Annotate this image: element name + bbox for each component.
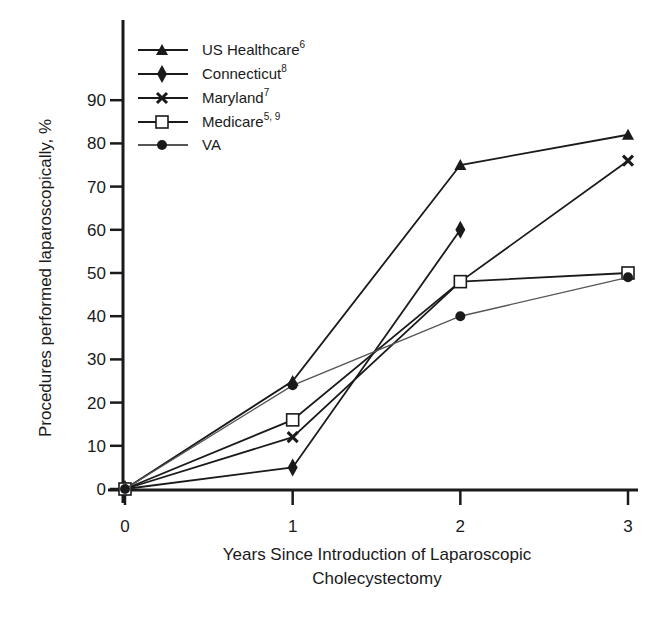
x-axis-title-line-2: Cholecystectomy bbox=[312, 569, 442, 588]
series-us-healthcare bbox=[119, 129, 634, 494]
x-axis-title-line-1: Years Since Introduction of Laparoscopic bbox=[223, 545, 532, 564]
diamond-marker bbox=[157, 65, 167, 83]
legend-label: US Healthcare6 bbox=[202, 39, 306, 58]
y-tick-label: 90 bbox=[87, 91, 106, 110]
series-connecticut bbox=[120, 221, 465, 498]
legend-label: Medicare5, 9 bbox=[202, 111, 281, 130]
square-marker bbox=[454, 276, 466, 288]
series-line bbox=[125, 273, 628, 489]
legend-item: VA bbox=[138, 136, 221, 153]
y-axis: 0102030405060708090 bbox=[87, 20, 123, 503]
x-marker bbox=[623, 156, 633, 166]
legend-item: US Healthcare6 bbox=[138, 39, 306, 58]
square-marker bbox=[156, 116, 168, 128]
x-tick-label: 2 bbox=[456, 517, 465, 536]
y-tick-label: 30 bbox=[87, 350, 106, 369]
y-tick-label: 20 bbox=[87, 394, 106, 413]
y-axis-title: Procedures performed laparoscopically, % bbox=[36, 119, 55, 437]
x-marker bbox=[288, 432, 298, 442]
triangle-marker bbox=[622, 129, 634, 140]
circle-marker bbox=[120, 484, 130, 494]
y-tick-label: 40 bbox=[87, 307, 106, 326]
line-chart: 0102030405060708090 0123 US Healthcare6C… bbox=[0, 0, 669, 621]
legend-label: Maryland7 bbox=[202, 87, 270, 106]
legend-item: Connecticut8 bbox=[138, 63, 287, 83]
legend-item: Medicare5, 9 bbox=[138, 111, 281, 130]
series-line bbox=[125, 135, 628, 489]
x-axis: 0123 bbox=[108, 490, 638, 536]
circle-marker bbox=[455, 311, 465, 321]
y-tick-label: 70 bbox=[87, 178, 106, 197]
circle-marker bbox=[157, 140, 167, 150]
y-tick-label: 0 bbox=[97, 480, 106, 499]
series-line bbox=[125, 230, 460, 489]
legend: US Healthcare6Connecticut8Maryland7Medic… bbox=[138, 39, 306, 153]
series-medicare bbox=[119, 267, 634, 495]
x-tick-label: 1 bbox=[288, 517, 297, 536]
legend-label: Connecticut8 bbox=[202, 63, 287, 82]
y-tick-label: 50 bbox=[87, 264, 106, 283]
series-va bbox=[120, 272, 633, 494]
circle-marker bbox=[288, 380, 298, 390]
series-layer bbox=[119, 129, 634, 498]
x-tick-label: 0 bbox=[120, 517, 129, 536]
circle-marker bbox=[623, 272, 633, 282]
legend-item: Maryland7 bbox=[138, 87, 270, 106]
x-tick-label: 3 bbox=[623, 517, 632, 536]
y-tick-label: 80 bbox=[87, 134, 106, 153]
square-marker bbox=[287, 414, 299, 426]
y-tick-label: 60 bbox=[87, 221, 106, 240]
legend-label: VA bbox=[202, 136, 221, 153]
y-tick-label: 10 bbox=[87, 437, 106, 456]
